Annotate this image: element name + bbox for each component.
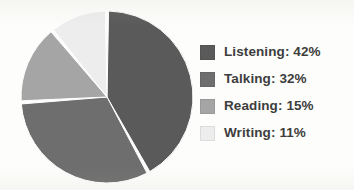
legend-swatch-talking (200, 72, 215, 87)
pie-chart-svg (18, 8, 196, 186)
pie-slice-group (21, 11, 193, 183)
legend-swatch-reading (200, 99, 215, 114)
legend-label-writing: Writing: 11% (224, 126, 306, 140)
legend-item-talking[interactable]: Talking: 32% (200, 71, 354, 87)
chart-legend: Listening: 42% Talking: 32% Reading: 15%… (200, 44, 354, 141)
legend-swatch-listening (200, 45, 215, 60)
legend-label-listening: Listening: 42% (224, 45, 321, 59)
legend-label-reading: Reading: 15% (224, 99, 314, 113)
pie-chart-figure: Listening: 42% Talking: 32% Reading: 15%… (0, 0, 354, 190)
legend-item-writing[interactable]: Writing: 11% (200, 125, 354, 141)
legend-item-listening[interactable]: Listening: 42% (200, 44, 354, 60)
legend-swatch-writing (200, 126, 215, 141)
legend-item-reading[interactable]: Reading: 15% (200, 98, 354, 114)
pie-chart-plot-area (18, 8, 196, 186)
legend-label-talking: Talking: 32% (224, 72, 307, 86)
